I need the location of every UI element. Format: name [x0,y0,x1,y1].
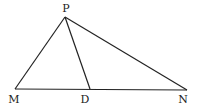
segment-mn [15,89,187,90]
triangle-diagram: P M D N [0,0,201,109]
label-m: M [8,93,19,106]
segment-pm [15,17,65,89]
segment-pd [65,17,90,89]
segment-pn [65,17,187,90]
label-p: P [62,2,70,15]
label-d: D [81,93,90,106]
label-n: N [178,93,188,106]
